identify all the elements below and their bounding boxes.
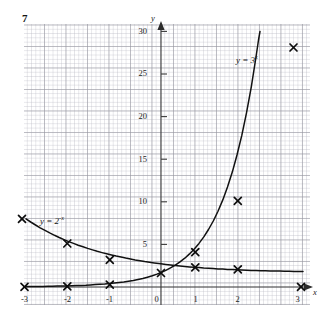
x-axis-label: x	[313, 288, 317, 297]
plot-area	[0, 0, 323, 315]
x-tick-label-2: 2	[229, 295, 246, 304]
curve-label-2negx: y = 2-x	[40, 213, 64, 226]
x-tick-label-neg2: -2	[59, 295, 76, 304]
curve-label-2negx-text: y = 2	[40, 216, 59, 226]
y-tick-label-5: 5	[130, 240, 147, 249]
marker-3x-2	[234, 197, 241, 204]
x-tick-label-1: 1	[187, 295, 204, 304]
marker-2negx-neg3	[19, 215, 26, 222]
curve-label-2negx-exponent: -x	[59, 214, 64, 221]
x-tick-label-3: 3	[289, 295, 306, 304]
x-axis-arrow	[304, 283, 313, 290]
curve-label-3x-text: y = 3	[236, 55, 255, 65]
y-axis-arrow	[157, 21, 164, 30]
x-tick-label-neg1: -1	[101, 295, 118, 304]
curve-label-3x: y = 3x	[236, 52, 258, 65]
y-tick-label-10: 10	[130, 197, 147, 206]
x-tick-label-0: 0	[148, 295, 165, 304]
y-axis-label: y	[151, 14, 155, 23]
x-tick-label-neg3: -3	[16, 295, 33, 304]
y-tick-label-20: 20	[130, 112, 147, 121]
y-tick-label-25: 25	[130, 69, 147, 78]
figure-container: 7	[0, 0, 323, 315]
y-axis-ticks	[161, 31, 167, 244]
marker-3x-3	[290, 44, 297, 51]
y-tick-label-15: 15	[130, 155, 147, 164]
y-tick-label-30: 30	[130, 27, 147, 36]
curve-label-3x-exponent: x	[255, 53, 258, 60]
marker-3x-1	[192, 249, 199, 256]
marker-2negx-neg1	[106, 256, 113, 263]
curve-2-to-the-minus-x	[26, 219, 303, 272]
